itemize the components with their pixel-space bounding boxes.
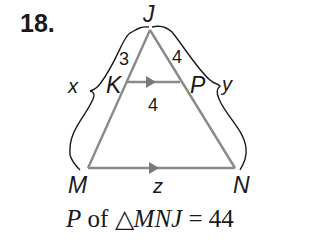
parallel-arrow-kp: [146, 76, 156, 88]
triangle-mnj: [88, 30, 235, 168]
segment-label-mn: z: [153, 176, 163, 196]
brace-right-y: [152, 26, 246, 170]
segment-label-kp: 4: [148, 96, 158, 114]
caption-suffix: = 44: [182, 205, 234, 232]
vertex-label-p: P: [190, 74, 205, 97]
vertex-label-k: K: [106, 74, 121, 97]
caption-prefix: P: [66, 205, 81, 232]
parallel-arrow-mn: [149, 162, 159, 174]
vertex-label-j: J: [143, 3, 155, 26]
brace-left-x: [70, 27, 149, 170]
segment-label-jp: 4: [172, 48, 182, 66]
brace-label-x: x: [68, 76, 78, 96]
segment-label-jk: 3: [119, 50, 129, 68]
perimeter-caption: P of △MNJ = 44: [66, 204, 234, 233]
vertex-label-m: M: [68, 174, 87, 197]
brace-label-y: y: [222, 74, 232, 94]
vertex-label-n: N: [233, 174, 250, 197]
caption-triangle: MNJ: [134, 205, 183, 232]
caption-middle: of △: [81, 205, 133, 232]
